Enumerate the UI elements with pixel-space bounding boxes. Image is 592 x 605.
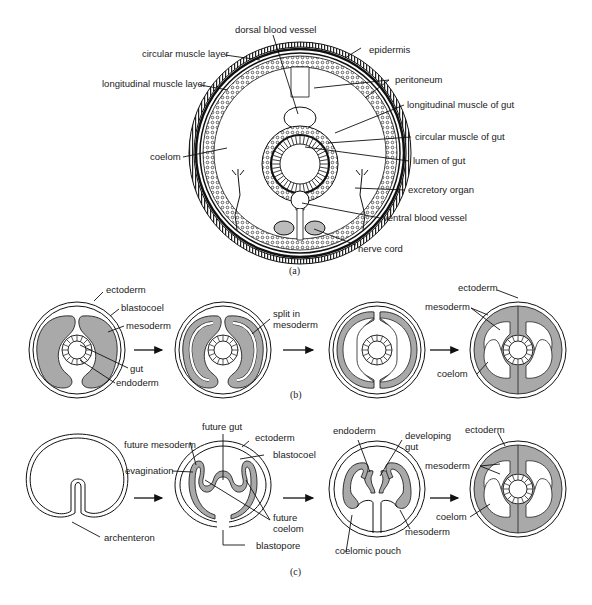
label-c-developing: developing xyxy=(405,430,451,441)
label-dorsal-blood-vessel: dorsal blood vessel xyxy=(235,24,316,35)
label-nerve-cord: nerve cord xyxy=(358,243,403,254)
label-b-final-mesoderm: mesoderm xyxy=(425,301,470,312)
nerve-cord-right xyxy=(305,221,325,235)
label-c-mesoderm: mesoderm xyxy=(405,526,450,537)
c-stage-4 xyxy=(470,441,566,537)
label-c-ectoderm: ectoderm xyxy=(255,432,295,443)
label-c-final-coelom: coelom xyxy=(436,511,467,522)
nerve-cord-left xyxy=(274,221,294,235)
label-c-coelomic-pouch: coelomic pouch xyxy=(335,545,401,556)
label-circular-muscle-of-gut: circular muscle of gut xyxy=(415,131,505,142)
label-b-mesoderm: mesoderm xyxy=(126,320,171,331)
label-b-ectoderm: ectoderm xyxy=(106,284,146,295)
c-stage-3 xyxy=(329,441,425,537)
label-longitudinal-muscle-layer: longitudinal muscle layer xyxy=(102,78,206,89)
label-c-future-gut: future gut xyxy=(202,421,242,432)
label-c-final-ectoderm: ectoderm xyxy=(465,424,505,435)
label-c-endoderm: endoderm xyxy=(333,425,376,436)
label-c-archenteron: archenteron xyxy=(104,532,155,543)
label-circular-muscle-layer: circular muscle layer xyxy=(142,48,229,59)
label-b-split-in: split in xyxy=(273,308,300,319)
label-c-blastocoel: blastocoel xyxy=(273,449,316,460)
label-lumen-of-gut: lumen of gut xyxy=(413,155,466,166)
b-stage-2 xyxy=(175,302,271,398)
label-ventral-blood-vessel: ventral blood vessel xyxy=(383,212,467,223)
label-b-final-ectoderm: ectoderm xyxy=(458,282,498,293)
panel-c-enterocoely: archenteron future gut ectoderm future m… xyxy=(26,421,566,578)
label-c-gut: gut xyxy=(405,441,419,452)
label-c-coelom: coelom xyxy=(273,523,304,534)
panel-a-earthworm-cross-section: dorsal blood vessel circular muscle laye… xyxy=(102,24,515,277)
coelom-diagram: dorsal blood vessel circular muscle laye… xyxy=(0,0,592,605)
caption-c: (c) xyxy=(290,566,301,578)
label-b-final-coelom: coelom xyxy=(437,368,468,379)
label-longitudinal-muscle-of-gut: longitudinal muscle of gut xyxy=(407,99,515,110)
label-excretory-organ: excretory organ xyxy=(408,184,474,195)
gut-lumen xyxy=(280,144,320,184)
label-epidermis: epidermis xyxy=(369,44,410,55)
label-coelom: coelom xyxy=(150,151,181,162)
label-c-future: future xyxy=(273,512,297,523)
b-stage-3 xyxy=(329,302,425,398)
label-c-future-mesoderm: future mesoderm xyxy=(124,439,196,450)
label-b-blastocoel: blastocoel xyxy=(121,302,164,313)
label-peritoneum: peritoneum xyxy=(395,74,443,85)
label-c-blastopore: blastopore xyxy=(256,540,300,551)
b-stage-1 xyxy=(29,302,125,398)
ventral-blood-vessel-shape xyxy=(291,191,309,209)
label-b-gut: gut xyxy=(130,363,144,374)
label-c-evagination: evagination xyxy=(125,465,174,476)
panel-b-schizocoely: ectoderm blastocoel mesoderm gut endoder… xyxy=(29,282,566,401)
label-b-split-mesoderm: mesoderm xyxy=(273,319,318,330)
b-stage-4 xyxy=(470,302,566,398)
caption-b: (b) xyxy=(290,389,302,401)
c-stage-1 xyxy=(26,434,128,517)
caption-a: (a) xyxy=(289,265,300,277)
label-b-endoderm: endoderm xyxy=(116,377,159,388)
label-c-final-mesoderm: mesoderm xyxy=(425,460,470,471)
